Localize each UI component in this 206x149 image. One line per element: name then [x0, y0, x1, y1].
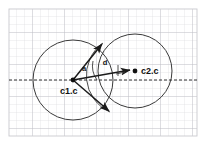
grid-area [9, 9, 197, 136]
point-c2-center [133, 69, 138, 74]
geometry-figure: c1.c c2.c a d [0, 0, 206, 149]
point-c1-center [71, 78, 76, 83]
label-distance-d: d [103, 58, 108, 67]
grid-layer [9, 9, 197, 136]
label-c2-center: c2.c [141, 66, 159, 76]
diagram-canvas: c1.c c2.c a d [0, 0, 206, 149]
label-c1-center: c1.c [60, 86, 78, 96]
